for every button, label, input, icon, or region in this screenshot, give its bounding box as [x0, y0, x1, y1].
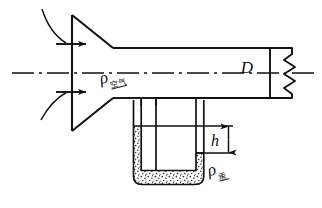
inlet-streamlines — [41, 9, 67, 120]
rho-air-symbol: ρ — [96, 67, 109, 88]
h-dimension-line — [141, 126, 233, 153]
rho-mercury-label: ρ 汞 — [204, 157, 229, 184]
figure-canvas: D h ρ 空气 ρ 汞 — [0, 0, 322, 208]
inlet-streamline-upper — [42, 9, 66, 43]
schematic-drawing: D h ρ 空气 ρ 汞 — [0, 0, 322, 208]
rho-mercury-symbol: ρ — [204, 159, 217, 180]
pipe-diameter-label: D — [240, 58, 254, 77]
inlet-streamline-lower — [41, 92, 67, 120]
manometer-height-label: h — [211, 132, 219, 149]
rho-air-label: ρ 空气 — [96, 63, 127, 92]
manometer-tap-stubs — [141, 98, 156, 106]
mercury-surface-lines — [134, 126, 204, 153]
mercury-fill — [134, 126, 203, 184]
